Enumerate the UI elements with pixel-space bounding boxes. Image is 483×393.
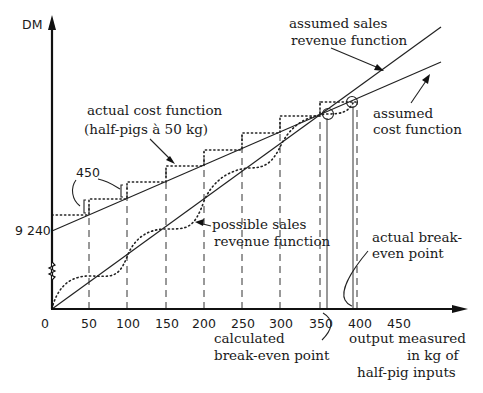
x-tick-250: 250 [231, 316, 255, 331]
x-tick-labels: 0 50 100 150 200 250 300 350 400 450 [41, 316, 411, 331]
step-value-label: 450 [76, 165, 100, 180]
calculated-break-even-label-2: break-even point [214, 347, 330, 363]
assumed-revenue-label-1: assumed sales [289, 15, 388, 31]
step-bracket [84, 200, 86, 213]
arrowhead-icon [374, 64, 384, 71]
x-tick-400: 400 [348, 316, 372, 331]
actual-cost-label-2: (half-pigs à 50 kg) [84, 121, 208, 137]
axis-break-icon [49, 262, 55, 280]
break-even-diagram: DM 9 240 0 50 100 150 200 250 300 350 40… [0, 0, 483, 393]
actual-break-even-label-1: actual break- [372, 229, 462, 245]
actual-cost-label-1: actual cost function [87, 102, 223, 118]
x-tick-0: 0 [41, 316, 49, 331]
x-tick-50: 50 [81, 316, 97, 331]
step-leader-1 [98, 179, 120, 189]
y-tick-9240: 9 240 [15, 223, 51, 238]
x-tick-300: 300 [269, 316, 293, 331]
assumed-cost-line [52, 62, 441, 231]
x-axis-label-1: output measured [349, 330, 466, 346]
arrowhead-icon [166, 156, 175, 164]
assumed-cost-label-2: cost function [373, 121, 462, 137]
actual-break-even-label-2: even point [372, 245, 444, 261]
x-axis-arrow-icon [452, 305, 468, 313]
possible-revenue-label-2: revenue function [214, 233, 331, 249]
y-axis-arrow-icon [48, 15, 56, 30]
x-tick-100: 100 [116, 316, 140, 331]
step-bracket [121, 185, 123, 197]
x-axis-label-3: half-pig inputs [357, 364, 456, 380]
calculated-break-even-label-1: calculated [214, 330, 285, 346]
assumed-revenue-label-2: revenue function [291, 32, 408, 48]
x-tick-450: 450 [387, 316, 411, 331]
actual-break-even-leader [344, 251, 368, 306]
assumed-revenue-leader [331, 48, 381, 69]
arrowhead-icon [195, 219, 204, 226]
arrowhead-icon [422, 74, 430, 84]
x-tick-150: 150 [155, 316, 179, 331]
x-tick-200: 200 [192, 316, 216, 331]
possible-revenue-label-1: possible sales [212, 216, 306, 232]
assumed-revenue-line [52, 27, 441, 309]
y-axis-label: DM [22, 17, 42, 32]
step-leader-2 [73, 180, 80, 206]
assumed-cost-label-1: assumed [373, 105, 433, 121]
x-axis-label-2: in kg of [407, 347, 460, 363]
